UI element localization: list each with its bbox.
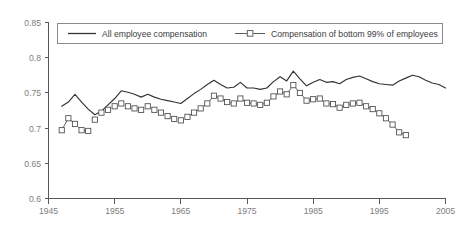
data-point-marker (72, 121, 77, 126)
data-point-marker (158, 110, 163, 115)
data-point-marker (364, 104, 369, 109)
data-point-marker (105, 107, 110, 112)
data-point-marker (218, 96, 223, 101)
data-point-marker (92, 117, 97, 122)
data-point-marker (185, 114, 190, 119)
line-chart: 0.85 0.8 0.75 0.7 0.65 0.6 1945 195 (0, 0, 465, 239)
data-point-marker (370, 106, 375, 111)
x-tick-label-6: 2005 (436, 206, 455, 216)
data-point-marker (139, 107, 144, 112)
data-point-marker (152, 107, 157, 112)
data-point-marker (86, 128, 91, 133)
y-tick-label-1: 0.8 (29, 53, 41, 63)
legend: All employee compensation Compensation o… (58, 24, 443, 44)
data-point-marker (191, 110, 196, 115)
data-point-marker (119, 101, 124, 106)
x-tick-label-4: 1985 (304, 206, 323, 216)
data-point-marker (271, 94, 276, 99)
y-tick-label-4: 0.65 (24, 159, 41, 169)
data-point-marker (258, 102, 263, 107)
data-point-marker (211, 93, 216, 98)
data-point-marker (344, 102, 349, 107)
data-point-marker (205, 101, 210, 106)
data-point-marker (390, 122, 395, 127)
y-tick-label-3: 0.7 (29, 124, 41, 134)
chart-container: 0.85 0.8 0.75 0.7 0.65 0.6 1945 195 (0, 0, 465, 239)
data-point-marker (311, 97, 316, 102)
legend-label-all-employee: All employee compensation (102, 29, 207, 39)
data-point-marker (172, 116, 177, 121)
x-tick-label-2: 1965 (171, 206, 190, 216)
data-point-marker (238, 96, 243, 101)
data-point-marker (244, 100, 249, 105)
data-point-marker (145, 104, 150, 109)
data-point-marker (251, 101, 256, 106)
legend-swatch-square-marker (247, 31, 253, 37)
data-point-marker (225, 99, 230, 104)
data-point-marker (132, 106, 137, 111)
data-point-marker (350, 101, 355, 106)
data-point-marker (99, 110, 104, 115)
y-tick-label-0: 0.85 (24, 18, 41, 28)
data-point-marker (165, 114, 170, 119)
x-tick-label-3: 1975 (237, 206, 256, 216)
y-tick-label-2: 0.75 (24, 88, 41, 98)
data-point-marker (403, 133, 408, 138)
legend-label-bottom-99: Compensation of bottom 99% of employees (271, 29, 438, 39)
data-point-marker (357, 100, 362, 105)
data-point-marker (112, 104, 117, 109)
data-point-marker (66, 116, 71, 121)
data-point-marker (317, 96, 322, 101)
x-tick-label-0: 1945 (39, 206, 58, 216)
y-tick-label-5: 0.6 (29, 194, 41, 204)
x-tick-label-5: 1995 (370, 206, 389, 216)
data-point-marker (297, 90, 302, 95)
x-tick-label-1: 1955 (105, 206, 124, 216)
data-point-marker (383, 116, 388, 121)
data-point-marker (304, 98, 309, 103)
data-point-marker (291, 83, 296, 88)
data-point-marker (324, 101, 329, 106)
data-point-marker (397, 130, 402, 135)
data-point-marker (330, 102, 335, 107)
data-point-marker (264, 100, 269, 105)
data-point-marker (277, 89, 282, 94)
data-point-marker (284, 92, 289, 97)
data-point-marker (231, 101, 236, 106)
data-point-marker (337, 105, 342, 110)
data-point-marker (198, 106, 203, 111)
data-point-marker (178, 118, 183, 123)
data-point-marker (59, 128, 64, 133)
data-point-marker (377, 111, 382, 116)
data-point-marker (125, 104, 130, 109)
data-point-marker (79, 128, 84, 133)
